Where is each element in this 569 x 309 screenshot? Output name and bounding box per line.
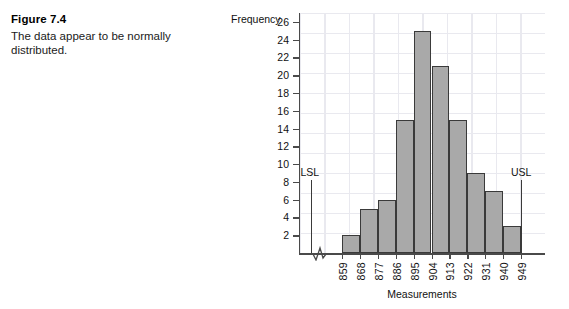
x-tick-859 <box>342 253 343 259</box>
x-axis-title: Measurements <box>299 288 545 300</box>
x-tick-877 <box>378 253 379 259</box>
y-tick-label-12: 12 <box>255 140 289 152</box>
y-tick-18 <box>293 93 299 94</box>
usl-line <box>521 180 522 253</box>
y-tick-2 <box>293 235 299 236</box>
histogram-bar <box>378 200 396 253</box>
x-tick-949 <box>521 253 522 259</box>
histogram-bar <box>485 191 503 253</box>
histogram-bar <box>342 235 360 253</box>
y-tick-label-18: 18 <box>255 87 289 99</box>
y-tick-24 <box>293 40 299 41</box>
y-tick-20 <box>293 75 299 76</box>
y-tick-8 <box>293 182 299 183</box>
histogram-bar <box>432 66 450 253</box>
y-tick-6 <box>293 200 299 201</box>
y-tick-16 <box>293 111 299 112</box>
histogram-bar <box>503 226 521 253</box>
y-tick-22 <box>293 57 299 58</box>
histogram-bar <box>467 173 485 253</box>
y-tick-4 <box>293 217 299 218</box>
figure-description: The data appear to be normally distribut… <box>11 29 183 57</box>
x-tick-904 <box>432 253 433 259</box>
x-tick-label-895: 895 <box>409 262 421 280</box>
y-tick-label-10: 10 <box>255 158 289 170</box>
y-tick-label-2: 2 <box>255 229 289 241</box>
y-tick-14 <box>293 129 299 130</box>
y-tick-label-8: 8 <box>255 175 289 187</box>
y-tick-label-14: 14 <box>255 122 289 134</box>
y-tick-label-24: 24 <box>255 33 289 45</box>
axis-break-icon <box>308 245 334 261</box>
x-tick-868 <box>360 253 361 259</box>
y-tick-label-26: 26 <box>255 15 289 27</box>
histogram-bar <box>449 120 467 253</box>
lsl-label: LSL <box>301 166 320 178</box>
histogram-bar <box>396 120 414 253</box>
x-axis-line <box>299 253 545 255</box>
y-tick-10 <box>293 164 299 165</box>
x-tick-886 <box>396 253 397 259</box>
figure-number: Figure 7.4 <box>11 12 211 27</box>
y-tick-26 <box>293 22 299 23</box>
y-tick-label-6: 6 <box>255 193 289 205</box>
x-tick-895 <box>414 253 415 259</box>
x-tick-label-859: 859 <box>337 262 349 280</box>
y-tick-label-20: 20 <box>255 69 289 81</box>
x-tick-label-913: 913 <box>444 262 456 280</box>
x-tick-label-940: 940 <box>498 262 510 280</box>
x-tick-label-877: 877 <box>373 262 385 280</box>
x-tick-label-868: 868 <box>355 262 367 280</box>
histogram-figure: Frequency 2468101214161820222426 8598688… <box>230 0 569 309</box>
figure-caption: Figure 7.4 The data appear to be normall… <box>11 12 211 57</box>
x-tick-label-931: 931 <box>480 262 492 280</box>
x-tick-label-949: 949 <box>516 262 528 280</box>
y-tick-label-16: 16 <box>255 104 289 116</box>
x-tick-913 <box>449 253 450 259</box>
x-tick-label-904: 904 <box>427 262 439 280</box>
x-tick-940 <box>503 253 504 259</box>
lsl-line <box>311 180 312 253</box>
histogram-bar <box>414 31 432 253</box>
usl-label: USL <box>511 166 531 178</box>
y-tick-label-4: 4 <box>255 211 289 223</box>
histogram-bar <box>360 209 378 253</box>
y-tick-12 <box>293 146 299 147</box>
y-axis-labels: 2468101214161820222426 <box>251 0 289 309</box>
x-tick-922 <box>467 253 468 259</box>
x-tick-931 <box>485 253 486 259</box>
x-tick-label-922: 922 <box>462 262 474 280</box>
x-tick-label-886: 886 <box>391 262 403 280</box>
y-tick-label-22: 22 <box>255 51 289 63</box>
